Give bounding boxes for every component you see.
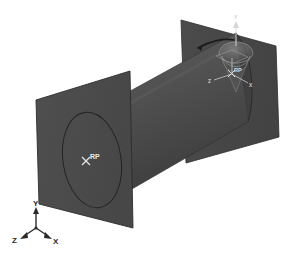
reference-point-right-label: RP — [234, 67, 242, 73]
left-rigid-plane[interactable]: RP — [36, 71, 133, 228]
triad-origin — [34, 226, 37, 229]
manipulator-axis-z-label: Z — [208, 78, 211, 84]
scene-canvas[interactable]: RP Y — [0, 0, 294, 253]
triad-axis-z-label: Z — [12, 236, 17, 245]
triad-axis-z: Z — [12, 228, 36, 245]
triad-axis-x-label: X — [53, 237, 59, 246]
abaqus-3d-viewport[interactable]: RP Y — [0, 0, 294, 253]
triad-axis-y: Y — [33, 199, 39, 228]
reference-point-left-label: RP — [90, 153, 100, 160]
triad-axis-x: X — [36, 228, 59, 246]
triad-axis-y-label: Y — [33, 199, 39, 208]
manipulator-axis-y-label: Y — [234, 14, 238, 20]
